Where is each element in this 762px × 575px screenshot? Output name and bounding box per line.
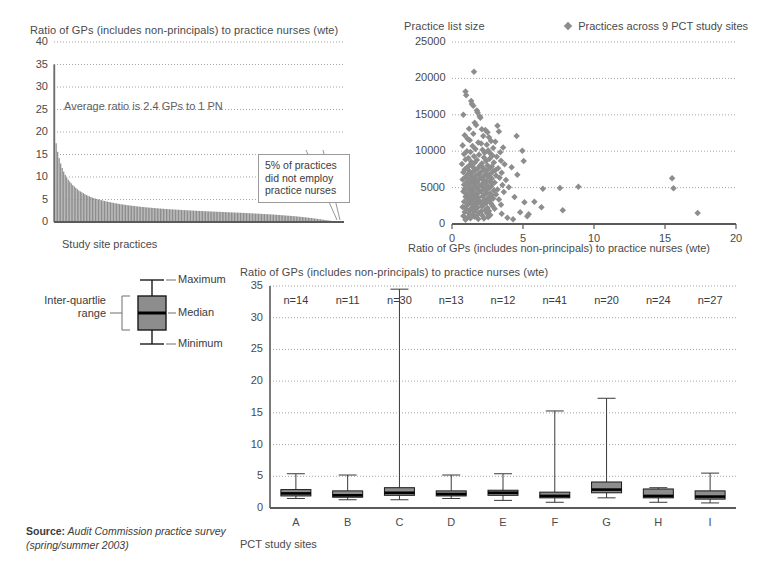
scatter-ytick-20000: 20000	[415, 71, 445, 83]
bar-ytick-5: 5	[18, 193, 48, 205]
box-xtick-I: I	[695, 516, 725, 528]
box-ytick-20: 20	[233, 374, 263, 386]
source-note: Source: Audit Commission practice survey…	[26, 524, 226, 552]
bar-ytick-40: 40	[18, 35, 48, 47]
scatter-chart-xlabel: Ratio of GPs (includes non-principals) t…	[408, 242, 710, 254]
scatter-ytick-0: 0	[415, 217, 445, 229]
boxplot-legend-panel: Maximum Median Minimum Inter-quartlie ra…	[18, 266, 228, 358]
legend-median-label: Median	[178, 306, 214, 318]
box-xtick-E: E	[488, 516, 518, 528]
bar-chart-callout: 5% of practices did not employ practice …	[258, 154, 350, 203]
bar-ytick-25: 25	[18, 103, 48, 115]
box-xtick-H: H	[643, 516, 673, 528]
bar-ytick-15: 15	[18, 148, 48, 160]
box-count-G: n=20	[583, 294, 631, 306]
box-count-A: n=14	[272, 294, 320, 306]
bar-ytick-35: 35	[18, 58, 48, 70]
bar-chart-plot: 0510152025303540	[26, 24, 356, 254]
legend-iqr-line2: range	[78, 307, 106, 319]
scatter-chart-plot: 050001000015000200002500005101520	[400, 20, 752, 260]
box-count-D: n=13	[427, 294, 475, 306]
box-xtick-C: C	[384, 516, 414, 528]
boxplot-chart-plot: 05101520253035n=14An=11Bn=30Cn=13Dn=12En…	[236, 266, 756, 556]
bar-chart-annotation: Average ratio is 2.4 GPs to 1 PN	[64, 100, 223, 112]
scatter-ytick-5000: 5000	[415, 181, 445, 193]
bar-ytick-0: 0	[18, 215, 48, 227]
scatter-ytick-25000: 25000	[415, 35, 445, 47]
bar-ytick-30: 30	[18, 80, 48, 92]
box-xtick-A: A	[281, 516, 311, 528]
box-xtick-B: B	[333, 516, 363, 528]
scatter-ytick-15000: 15000	[415, 108, 445, 120]
box-count-I: n=27	[686, 294, 734, 306]
legend-iqr-label: Inter-quartlie range	[18, 294, 106, 320]
source-label: Source:	[26, 525, 65, 537]
box-count-C: n=30	[375, 294, 423, 306]
scatter-ytick-10000: 10000	[415, 144, 445, 156]
legend-iqr-line1: Inter-quartlie	[44, 294, 106, 306]
boxplot-chart-panel: Ratio of GPs (includes non-principals) t…	[236, 266, 756, 556]
boxplot-chart-xlabel: PCT study sites	[240, 538, 317, 550]
source-text: Audit Commission practice survey	[65, 525, 226, 537]
box-xtick-D: D	[436, 516, 466, 528]
box-ytick-15: 15	[233, 406, 263, 418]
bar-ytick-20: 20	[18, 125, 48, 137]
bar-chart-panel: Ratio of GPs (includes non-principals) t…	[26, 24, 356, 254]
box-ytick-35: 35	[233, 279, 263, 291]
legend-maximum-label: Maximum	[178, 273, 226, 285]
box-count-H: n=24	[634, 294, 682, 306]
box-xtick-G: G	[592, 516, 622, 528]
box-count-F: n=41	[531, 294, 579, 306]
box-ytick-10: 10	[233, 438, 263, 450]
box-xtick-F: F	[540, 516, 570, 528]
box-count-E: n=12	[479, 294, 527, 306]
source-date: (spring/summer 2003)	[26, 539, 129, 551]
box-ytick-30: 30	[233, 311, 263, 323]
bar-chart-xlabel: Study site practices	[62, 238, 157, 250]
bar-ytick-10: 10	[18, 170, 48, 182]
box-ytick-5: 5	[233, 469, 263, 481]
scatter-chart-panel: Practice list size Practices across 9 PC…	[400, 20, 752, 260]
legend-minimum-label: Minimum	[178, 337, 223, 349]
scatter-xtick-20: 20	[721, 232, 751, 244]
box-count-B: n=11	[324, 294, 372, 306]
box-ytick-0: 0	[233, 501, 263, 513]
box-ytick-25: 25	[233, 342, 263, 354]
